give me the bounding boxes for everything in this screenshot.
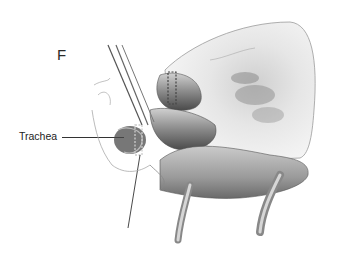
atrium (160, 146, 308, 240)
trachea (114, 125, 146, 228)
surgical-illustration (0, 0, 337, 263)
retractor-rods (108, 45, 154, 125)
